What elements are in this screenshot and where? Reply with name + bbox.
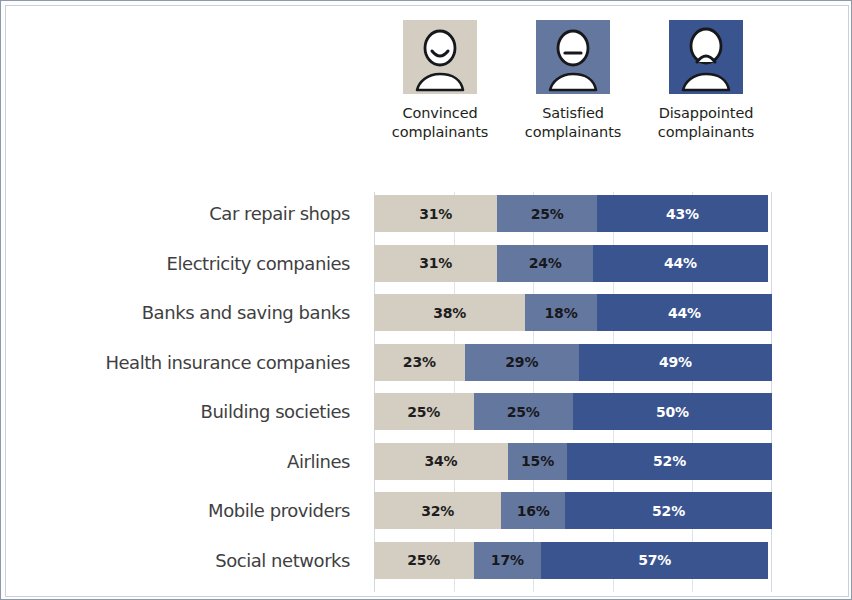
legend-label-line2: complainants xyxy=(374,123,506,142)
stacked-bar: 34%15%52% xyxy=(374,443,772,480)
bar-row: 38%18%44% xyxy=(374,294,772,331)
category-label: Banks and saving banks xyxy=(142,294,350,331)
legend: Convinced complainants Satisfied complai… xyxy=(374,20,772,170)
bar-segment: 17% xyxy=(474,542,542,579)
bar-row: 32%16%52% xyxy=(374,492,772,529)
bar-segment: 32% xyxy=(374,492,501,529)
legend-label-convinced: Convinced complainants xyxy=(374,104,506,142)
legend-label-line1: Convinced xyxy=(402,105,477,121)
person-neutral-icon xyxy=(536,20,610,94)
category-axis: Car repair shopsElectricity companiesBan… xyxy=(20,192,362,592)
legend-label-satisfied: Satisfied complainants xyxy=(507,104,639,142)
stacked-bar: 32%16%52% xyxy=(374,492,772,529)
bar-segment: 18% xyxy=(525,294,597,331)
bar-segment: 50% xyxy=(573,393,772,430)
stacked-bar: 25%17%57% xyxy=(374,542,772,579)
person-frown-icon xyxy=(669,20,743,94)
bar-segment: 52% xyxy=(565,492,772,529)
bar-segment: 57% xyxy=(541,542,768,579)
category-label: Building societies xyxy=(200,393,350,430)
legend-item-satisfied: Satisfied complainants xyxy=(507,20,639,142)
bar-segment: 31% xyxy=(374,195,497,232)
bar-segment: 49% xyxy=(579,344,772,381)
bar-row: 34%15%52% xyxy=(374,443,772,480)
category-label: Car repair shops xyxy=(209,195,350,232)
category-label: Health insurance companies xyxy=(105,344,350,381)
bar-row: 31%25%43% xyxy=(374,195,772,232)
stacked-bar: 31%24%44% xyxy=(374,245,772,282)
bar-segment: 29% xyxy=(465,344,579,381)
legend-label-line2: complainants xyxy=(507,123,639,142)
stacked-bar: 31%25%43% xyxy=(374,195,772,232)
bar-segment: 25% xyxy=(474,393,574,430)
bar-segment: 52% xyxy=(567,443,772,480)
category-label: Social networks xyxy=(215,542,350,579)
bar-segment: 16% xyxy=(501,492,565,529)
bar-row: 23%29%49% xyxy=(374,344,772,381)
bar-segment: 25% xyxy=(497,195,597,232)
legend-label-line1: Satisfied xyxy=(542,105,604,121)
bar-segment: 25% xyxy=(374,393,474,430)
bar-segment: 38% xyxy=(374,294,525,331)
bar-segment: 15% xyxy=(508,443,567,480)
chart-frame: Convinced complainants Satisfied complai… xyxy=(0,0,852,600)
person-smile-icon xyxy=(403,20,477,94)
chart-inner-border: Convinced complainants Satisfied complai… xyxy=(5,5,849,597)
stacked-bar: 38%18%44% xyxy=(374,294,772,331)
bar-segment: 44% xyxy=(593,245,768,282)
bar-segment: 24% xyxy=(497,245,593,282)
bar-row: 31%24%44% xyxy=(374,245,772,282)
bar-segment: 43% xyxy=(597,195,768,232)
legend-item-disappointed: Disappointed complainants xyxy=(640,20,772,142)
bar-segment: 44% xyxy=(597,294,772,331)
legend-label-disappointed: Disappointed complainants xyxy=(640,104,772,142)
bar-segment: 25% xyxy=(374,542,474,579)
bar-segment: 23% xyxy=(374,344,465,381)
legend-label-line2: complainants xyxy=(640,123,772,142)
legend-item-convinced: Convinced complainants xyxy=(374,20,506,142)
category-label: Mobile providers xyxy=(208,492,350,529)
category-label: Airlines xyxy=(287,443,350,480)
bar-row: 25%17%57% xyxy=(374,542,772,579)
category-label: Electricity companies xyxy=(167,245,350,282)
stacked-bar: 23%29%49% xyxy=(374,344,772,381)
bar-segment: 34% xyxy=(374,443,508,480)
plot-area: 31%25%43%31%24%44%38%18%44%23%29%49%25%2… xyxy=(374,192,772,592)
stacked-bar: 25%25%50% xyxy=(374,393,772,430)
legend-label-line1: Disappointed xyxy=(659,105,754,121)
bar-segment: 31% xyxy=(374,245,497,282)
bar-row: 25%25%50% xyxy=(374,393,772,430)
